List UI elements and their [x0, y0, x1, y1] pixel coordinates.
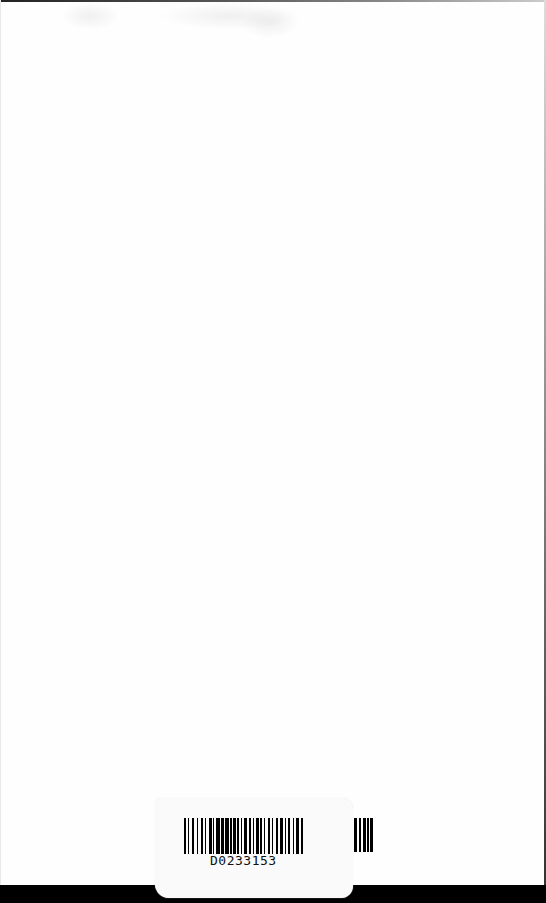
bleed-through-mark — [240, 8, 300, 38]
bleed-through-mark — [60, 2, 120, 30]
barcode-icon — [184, 818, 328, 854]
side-barcode-icon — [354, 818, 376, 852]
page-left-edge — [0, 0, 1, 885]
scanned-page: D0233153 — [0, 0, 546, 903]
barcode-number: D0233153 — [210, 853, 320, 868]
